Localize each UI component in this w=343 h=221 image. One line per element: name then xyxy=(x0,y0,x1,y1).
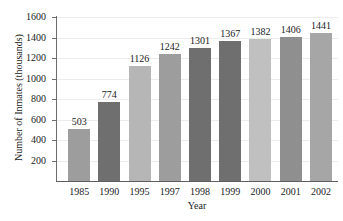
y-tick-label: 1200 xyxy=(6,53,46,63)
bar xyxy=(249,39,271,181)
y-axis-line xyxy=(56,16,57,182)
chart-title: and Federal Prisons xyxy=(0,0,343,1)
bar xyxy=(280,37,302,181)
bar-value-label: 1126 xyxy=(115,54,165,64)
gridline xyxy=(57,17,338,18)
bar xyxy=(219,41,241,181)
bar xyxy=(98,102,120,181)
y-tick-label: 800 xyxy=(6,94,46,104)
y-tick-label: 1400 xyxy=(6,33,46,43)
y-tick-label: 200 xyxy=(6,156,46,166)
y-tick-label: 1000 xyxy=(6,74,46,84)
bar xyxy=(159,54,181,181)
bar xyxy=(310,33,332,181)
y-tick-label: 1600 xyxy=(6,12,46,22)
bar xyxy=(129,66,151,181)
bar-value-label: 503 xyxy=(54,117,104,127)
bar-value-label: 1441 xyxy=(296,21,343,31)
bar xyxy=(68,129,90,181)
bar-value-label: 774 xyxy=(84,90,134,100)
y-tick-label: 600 xyxy=(6,115,46,125)
y-tick-label: 400 xyxy=(6,135,46,145)
x-axis-line xyxy=(56,181,338,183)
plot-area: 2004006008001000120014001600 50377411261… xyxy=(56,16,338,182)
bar-chart: and Federal Prisons Number of Inmates (t… xyxy=(0,0,343,221)
x-tick-label: 2002 xyxy=(296,186,343,197)
bar xyxy=(189,48,211,181)
x-axis-label: Year xyxy=(56,200,338,211)
